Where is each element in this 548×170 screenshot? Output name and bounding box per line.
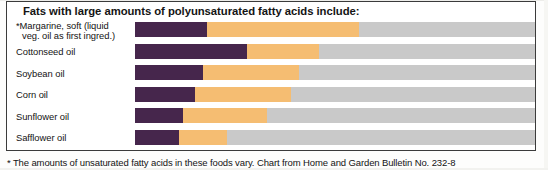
bar-segment-monounsaturated [195,87,291,102]
bar-segment-monounsaturated [247,44,319,59]
chart-row: *Margarine, soft (liquidveg. oil as firs… [7,21,548,41]
row-label: Sunflower oil [16,112,132,122]
chart-page: Fats with large amounts of polyunsaturat… [0,0,548,170]
row-label: Soybean oil [16,69,132,79]
bar-segment-saturated [135,87,195,102]
chart-row: Safflower oil [7,129,548,149]
page-edge-bottom [0,168,548,170]
row-label-line1: Sunflower oil [16,112,132,122]
row-label: Safflower oil [16,133,132,143]
bar-track-polyunsaturated [135,65,535,80]
bar-track-polyunsaturated [135,87,535,102]
bar-track-polyunsaturated [135,130,535,145]
bar-segment-saturated [135,65,203,80]
row-label: Cottonseed oil [16,47,132,57]
bar-track-polyunsaturated [135,44,535,59]
row-label-line2: veg. oil as first ingred.) [16,31,132,41]
chart-row: Cottonseed oil [7,43,548,63]
chart-footnote: * The amounts of unsaturated fatty acids… [7,157,455,168]
bar-segment-monounsaturated [203,65,299,80]
chart-row: Soybean oil [7,64,548,84]
bar-segment-saturated [135,44,247,59]
row-label-line1: Safflower oil [16,133,132,143]
row-label-line1: Corn oil [16,90,132,100]
bar-segment-monounsaturated [207,22,359,37]
row-label-line1: Cottonseed oil [16,47,132,57]
bar-segment-monounsaturated [183,108,267,123]
chart-panel: Fats with large amounts of polyunsaturat… [6,1,536,151]
chart-row: Corn oil [7,86,548,106]
bar-segment-saturated [135,130,179,145]
bar-segment-saturated [135,22,207,37]
row-label: Corn oil [16,90,132,100]
bar-track-polyunsaturated [135,22,535,37]
chart-row: Sunflower oil [7,107,548,127]
row-label-line1: Soybean oil [16,69,132,79]
bar-segment-saturated [135,108,183,123]
row-label: *Margarine, soft (liquidveg. oil as firs… [16,21,132,42]
bar-track-polyunsaturated [135,108,535,123]
bar-segment-monounsaturated [179,130,227,145]
chart-title: Fats with large amounts of polyunsaturat… [23,5,359,17]
